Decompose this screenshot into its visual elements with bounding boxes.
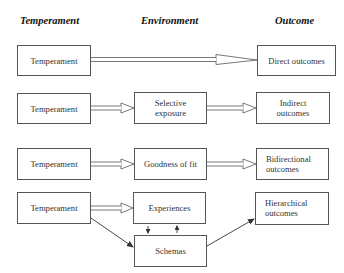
goodness-of-fit-label: Goodness of fit bbox=[144, 159, 197, 169]
connectors bbox=[0, 0, 344, 273]
arrow-row4-temperament-to-schemas bbox=[91, 218, 133, 247]
selective-exposure-box: Selective exposure bbox=[134, 92, 207, 124]
hierarchical-outcomes-label: Hierarchical outcomes bbox=[265, 198, 320, 218]
arrow-schemas-to-hierarchical bbox=[207, 219, 254, 246]
goodness-of-fit-box: Goodness of fit bbox=[134, 148, 207, 180]
arrow-row3-goodness-to-bidirectional bbox=[207, 159, 256, 169]
hierarchical-outcomes-box: Hierarchical outcomes bbox=[255, 192, 329, 225]
arrow-row3-temperament-to-goodness bbox=[91, 159, 134, 169]
bidirectional-outcomes-label: Bidirectional outcomes bbox=[266, 154, 320, 174]
schemas-label: Schemas bbox=[155, 246, 186, 256]
selective-exposure-label: Selective exposure bbox=[153, 98, 188, 118]
row2-temperament-label: Temperament bbox=[30, 104, 77, 114]
arrow-row4-temperament-to-experiences bbox=[91, 203, 133, 213]
direct-outcomes-label: Direct outcomes bbox=[268, 56, 325, 66]
row1-temperament-label: Temperament bbox=[30, 56, 77, 66]
experiences-box: Experiences bbox=[133, 192, 206, 224]
indirect-outcomes-label: Indirect outcomes bbox=[273, 98, 313, 118]
row2-temperament-box: Temperament bbox=[17, 93, 91, 124]
experiences-label: Experiences bbox=[149, 203, 191, 213]
indirect-outcomes-box: Indirect outcomes bbox=[256, 92, 330, 124]
arrow-row2-selective-to-indirect bbox=[207, 103, 256, 113]
row3-temperament-box: Temperament bbox=[17, 148, 91, 180]
row1-temperament-box: Temperament bbox=[17, 45, 91, 76]
row3-temperament-label: Temperament bbox=[30, 159, 77, 169]
bidirectional-outcomes-box: Bidirectional outcomes bbox=[256, 148, 329, 180]
row4-temperament-label: Temperament bbox=[30, 203, 77, 213]
arrow-row2-temperament-to-selective bbox=[91, 103, 134, 113]
row4-temperament-box: Temperament bbox=[17, 192, 91, 224]
arrow-row1-temperament-to-outcome bbox=[91, 55, 257, 65]
schemas-box: Schemas bbox=[134, 235, 207, 267]
direct-outcomes-box: Direct outcomes bbox=[257, 45, 336, 76]
